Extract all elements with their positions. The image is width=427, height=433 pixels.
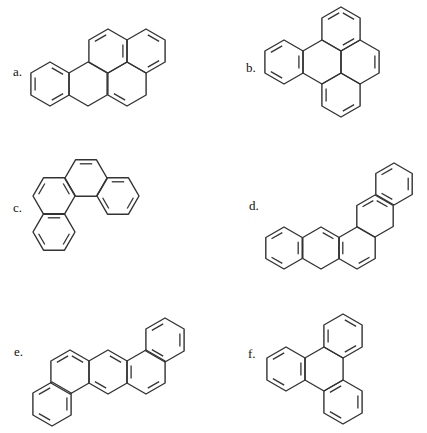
molecule-f-label: f. xyxy=(248,346,256,362)
benzene-ring xyxy=(89,350,127,394)
benzene-ring xyxy=(267,347,305,391)
benzene-ring xyxy=(322,73,360,117)
molecule-f-structure xyxy=(267,314,362,424)
molecule-c-label: c. xyxy=(13,200,22,216)
molecule-b-structure xyxy=(265,7,379,117)
benzene-ring xyxy=(146,318,184,362)
benzene-ring xyxy=(31,62,69,106)
benzene-ring xyxy=(33,382,71,426)
benzene-ring xyxy=(127,29,165,73)
benzene-ring xyxy=(266,227,302,269)
benzene-ring xyxy=(127,350,165,394)
molecule-e-label: e. xyxy=(14,344,23,360)
benzene-ring xyxy=(303,40,341,84)
benzene-ring xyxy=(305,347,343,391)
benzene-ring xyxy=(324,314,362,358)
molecule-b-label: b. xyxy=(246,60,256,76)
benzene-ring xyxy=(51,350,89,394)
molecule-e-structure xyxy=(33,318,184,426)
molecule-a-structure xyxy=(31,29,165,106)
molecule-d-structure xyxy=(266,163,412,269)
benzene-ring xyxy=(108,62,146,106)
molecule-a-label: a. xyxy=(13,64,22,80)
molecule-c-structure xyxy=(33,160,139,250)
molecule-d-label: d. xyxy=(249,198,259,214)
benzene-ring xyxy=(341,40,379,84)
benzene-ring xyxy=(303,227,339,269)
benzene-ring xyxy=(322,7,360,51)
molecule-figure xyxy=(0,0,427,433)
benzene-ring xyxy=(33,214,75,250)
benzene-ring xyxy=(265,40,303,84)
benzene-ring xyxy=(324,380,362,424)
